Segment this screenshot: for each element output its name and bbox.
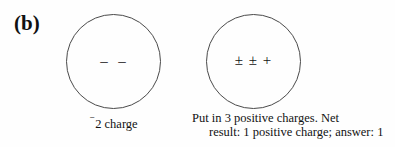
caption-after: Put in 3 positive charges. Netresult: 1 …: [192, 111, 395, 139]
charge-symbols-before: – –: [66, 52, 161, 70]
caption-after-line-1: Put in 3 positive charges. Net: [192, 111, 339, 125]
figure-panel-b: (b) – – ⁻2 charge ± ± + Put in 3 positiv…: [0, 0, 395, 147]
caption-before: ⁻2 charge: [66, 112, 161, 131]
panel-label: (b): [14, 11, 40, 36]
caption-after-line-2: result: 1 positive charge; answer: 1: [192, 125, 395, 139]
charge-symbols-after: ± ± +: [206, 50, 301, 70]
caption-before-text: 2 charge: [95, 117, 137, 131]
